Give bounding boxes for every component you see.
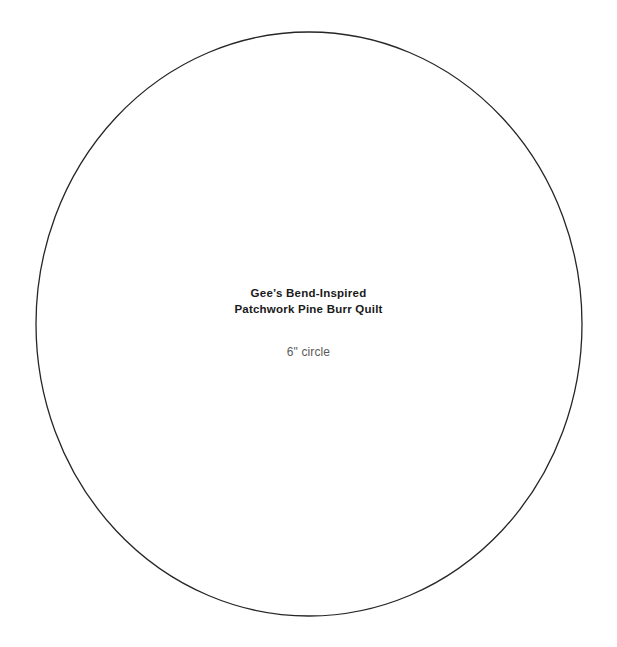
- pattern-title-line-1: Gee’s Bend-Inspired: [0, 286, 617, 302]
- circle-template-canvas: [0, 0, 617, 647]
- page-background: [0, 0, 617, 647]
- pattern-title-block: Gee’s Bend-Inspired Patchwork Pine Burr …: [0, 286, 617, 317]
- pattern-title-line-2: Patchwork Pine Burr Quilt: [0, 302, 617, 318]
- pattern-size-block: 6" circle: [0, 345, 617, 360]
- pattern-template-page: Gee’s Bend-Inspired Patchwork Pine Burr …: [0, 0, 617, 647]
- circle-size-label: 6" circle: [0, 345, 617, 360]
